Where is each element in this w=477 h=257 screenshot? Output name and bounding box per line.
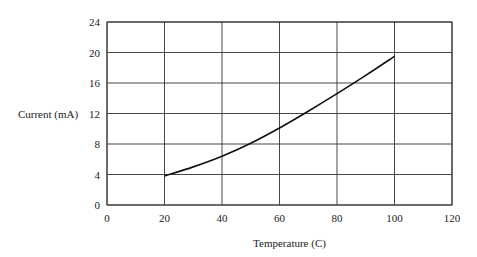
y-tick-label: 16 [89, 77, 101, 89]
x-tick-label: 60 [274, 212, 286, 224]
x-tick-label: 80 [332, 212, 344, 224]
y-tick-label: 4 [95, 169, 101, 181]
y-tick-label: 24 [89, 16, 101, 28]
y-axis-ticks: 04812162024 [89, 16, 101, 211]
x-tick-label: 40 [217, 212, 229, 224]
y-tick-label: 0 [95, 199, 101, 211]
x-tick-label: 0 [104, 212, 110, 224]
x-tick-label: 120 [444, 212, 461, 224]
y-tick-label: 20 [89, 47, 101, 59]
x-tick-label: 20 [159, 212, 171, 224]
grid [107, 22, 452, 205]
x-axis-label: Temperature (C) [253, 237, 326, 250]
y-axis-label: Current (mA) [18, 108, 79, 121]
y-tick-label: 8 [95, 138, 101, 150]
chart: 020406080100120 04812162024 Temperature … [0, 0, 477, 257]
y-tick-label: 12 [89, 108, 100, 120]
x-tick-label: 100 [386, 212, 403, 224]
x-axis-ticks: 020406080100120 [104, 212, 461, 224]
